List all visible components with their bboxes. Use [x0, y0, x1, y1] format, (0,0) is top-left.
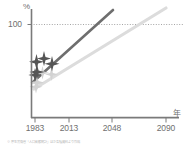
x-axis-tick-label: 1983	[26, 124, 45, 133]
x-axis-tick-label: 2048	[103, 124, 122, 133]
x-axis-tick-label: 2090	[157, 124, 176, 133]
x-axis-tick-labels: 1983 2013 2048 2090	[0, 124, 186, 136]
chart-source-caption: ※ 厚生労働省「人口動態統計」ほか各種資料より作成	[7, 140, 183, 144]
x-axis-title: 年	[173, 110, 181, 118]
trendline-dark-series	[33, 10, 113, 82]
y-axis-title: %	[23, 3, 30, 11]
y-axis-tick-label-100: 100	[8, 20, 22, 29]
data-point-marker	[28, 68, 41, 82]
chart-container: % 年 100 1983 2013 2048 2090 ※ 厚生労働省「人口動態…	[0, 0, 186, 150]
x-axis-tick-label: 2013	[60, 124, 79, 133]
